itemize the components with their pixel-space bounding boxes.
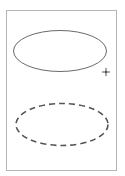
crosshair-center [105, 71, 107, 73]
drawing-canvas [0, 0, 125, 176]
crosshair-icon[interactable] [102, 68, 110, 76]
dashed-ellipse[interactable] [16, 104, 108, 146]
drawing-surface [0, 0, 125, 176]
solid-ellipse[interactable] [14, 31, 107, 72]
page-frame [7, 11, 117, 171]
